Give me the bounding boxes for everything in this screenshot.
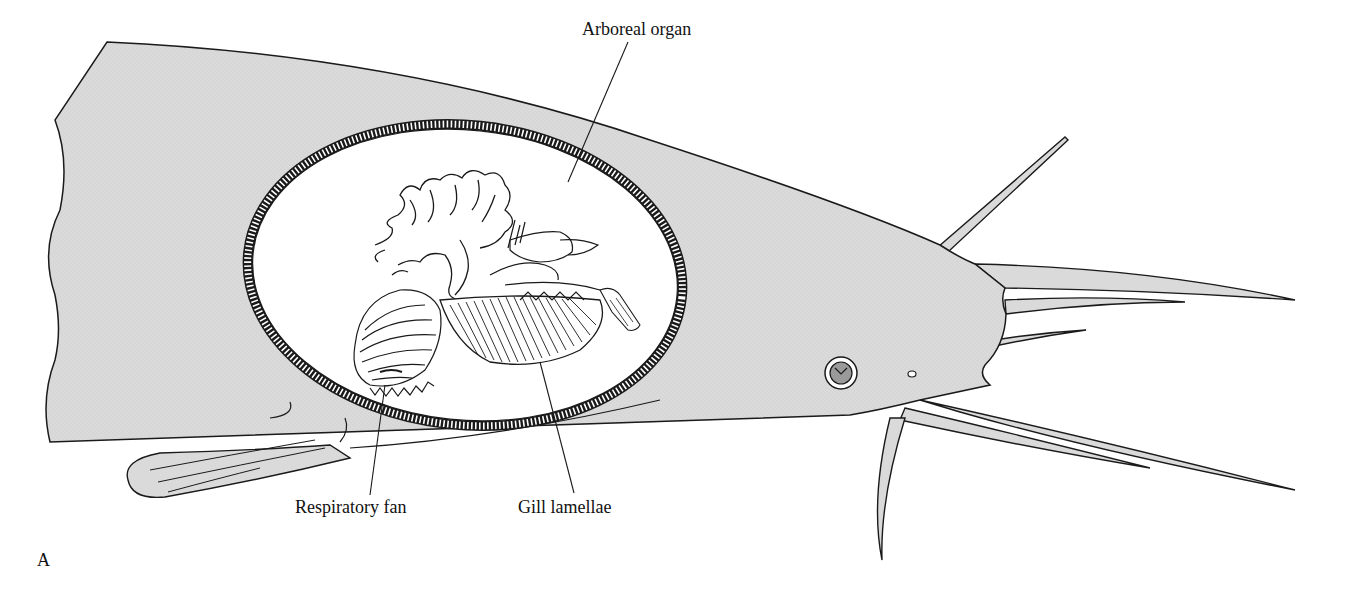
mandibular-barbel-outer	[920, 400, 1295, 490]
nostril	[908, 371, 916, 377]
catfish-anatomy-figure: Arboreal organ Respiratory fan Gill lame…	[0, 0, 1357, 600]
chin-barbel	[878, 418, 906, 560]
nasal-barbel	[938, 137, 1068, 252]
maxillary-barbel-upper	[975, 264, 1295, 300]
eye	[825, 357, 857, 389]
pectoral-fin	[127, 440, 350, 497]
mandibular-barbel-inner	[900, 408, 1150, 468]
panel-letter: A	[37, 551, 50, 569]
catfish-illustration	[0, 0, 1357, 600]
maxillary-barbel-second	[1005, 298, 1185, 314]
label-arboreal-organ: Arboreal organ	[582, 20, 691, 38]
label-respiratory-fan: Respiratory fan	[295, 498, 406, 516]
label-gill-lamellae: Gill lamellae	[518, 498, 611, 516]
